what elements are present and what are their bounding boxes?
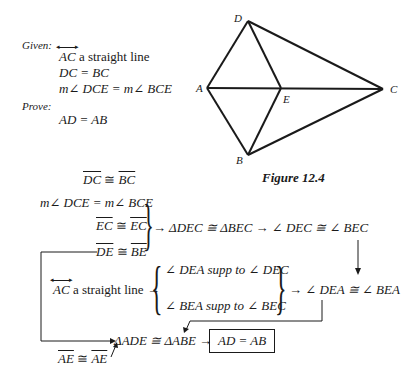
segment-de [248,21,281,88]
segment-dc [248,21,383,89]
segment-ab [207,88,248,155]
point-label-b: B [236,154,243,166]
point-label-a: A [196,82,203,94]
flow-supp-1: ∠ DEA supp to ∠ DEC [165,262,289,278]
flow-statement-de-be: DE ≅ BE [96,244,147,260]
point-label-e: E [283,93,290,105]
flow-conclusion-adeabe: ΔADE ≅ ΔABE → [114,333,212,349]
flow-statement-ec-ec: EC ≅ EC [96,218,147,234]
brace-right-2: } [275,256,287,318]
flow-supp-2: ∠ BEA supp to ∠ BEC [165,298,286,314]
segment-ad [207,21,248,88]
brace-left-2: { [151,256,163,318]
point-label-c: C [390,83,397,95]
ray-ac-2: ◂AC▸ [53,282,70,298]
flow-statement-ac-line: ◂AC▸ a straight line → [53,282,160,298]
figure-caption: Figure 12.4 [262,170,325,186]
segment-be [248,88,281,155]
flow-statement-dc-bc: DC ≅ BC [83,172,135,188]
flow-statement-ae-ae: AE ≅ AE [58,351,107,367]
figure-12-4 [0,0,409,371]
point-label-d: D [234,12,242,24]
segment-bc [248,89,383,155]
flow-conclusion-triangles: → ΔDEC ≅ ΔBEC → ∠ DEC ≅ ∠ BEC [153,220,368,236]
flow-conclusion-angles: → ∠ DEA ≅ ∠ BEA [289,282,400,298]
result-box: AD = AB [209,329,275,353]
flow-statement-angles: m∠ DCE = m∠ BCE [40,195,153,211]
segment-ac [207,88,383,89]
